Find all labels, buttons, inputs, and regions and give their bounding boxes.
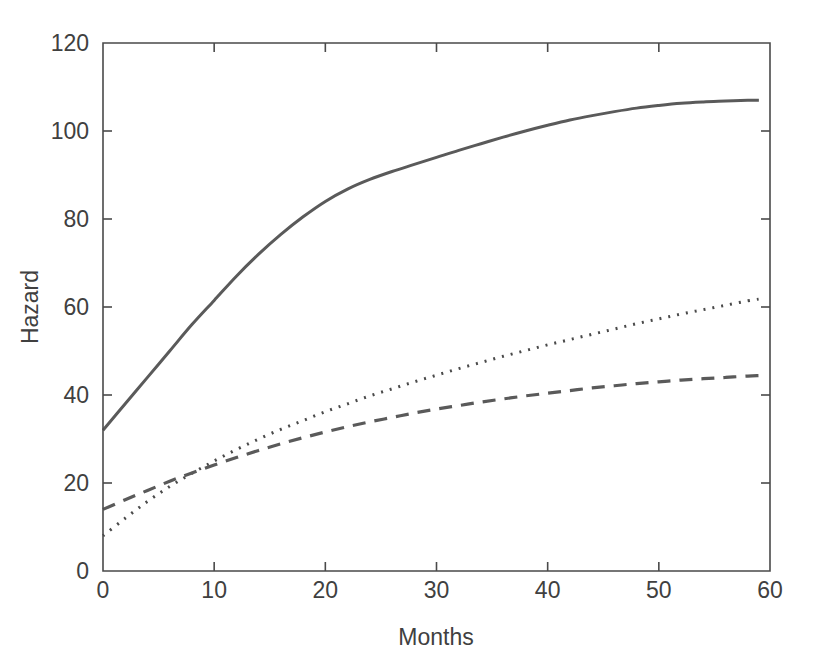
x-tick-label: 40 bbox=[535, 577, 561, 603]
x-tick-label: 10 bbox=[201, 577, 227, 603]
x-tick-label: 20 bbox=[313, 577, 339, 603]
y-tick-label: 120 bbox=[51, 30, 89, 56]
x-axis-title: Months bbox=[398, 624, 473, 650]
axis-group bbox=[103, 43, 770, 571]
x-tick-label: 50 bbox=[646, 577, 672, 603]
x-tick-label: 30 bbox=[424, 577, 450, 603]
chart-canvas: 0102030405060020406080100120 Months Haza… bbox=[0, 0, 813, 659]
y-tick-label: 0 bbox=[76, 558, 89, 584]
hazard-chart-figure: 0102030405060020406080100120 Months Haza… bbox=[0, 0, 813, 659]
series-dotted-curve bbox=[103, 299, 759, 536]
y-tick-label: 20 bbox=[63, 470, 89, 496]
x-tick-label: 0 bbox=[97, 577, 110, 603]
y-axis-title: Hazard bbox=[17, 270, 43, 344]
tick-group bbox=[103, 43, 770, 571]
series-dashed-curve bbox=[103, 376, 759, 510]
series-group bbox=[103, 100, 759, 536]
label-group: 0102030405060020406080100120 bbox=[51, 30, 783, 603]
y-tick-label: 60 bbox=[63, 294, 89, 320]
y-tick-label: 40 bbox=[63, 382, 89, 408]
y-tick-label: 80 bbox=[63, 206, 89, 232]
axis-box bbox=[103, 43, 770, 571]
x-tick-label: 60 bbox=[757, 577, 783, 603]
y-tick-label: 100 bbox=[51, 118, 89, 144]
